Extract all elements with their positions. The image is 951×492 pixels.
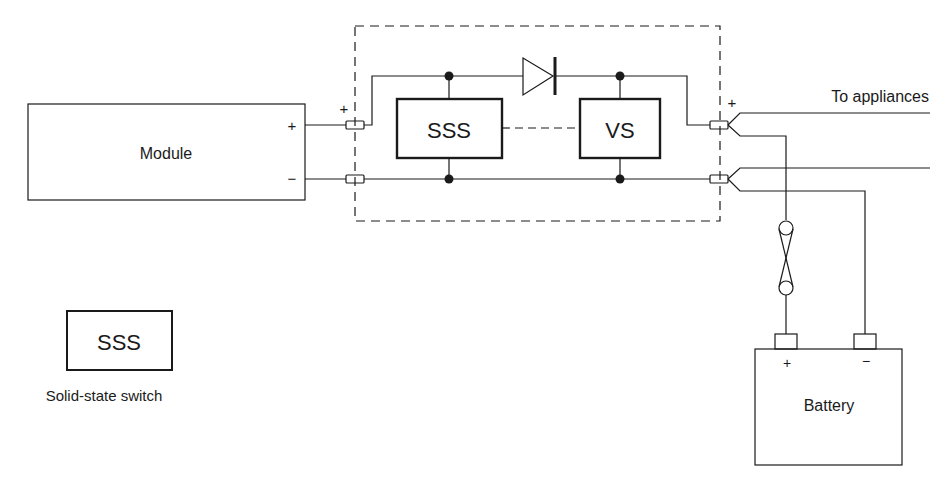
appliance-positive-wire (728, 113, 930, 125)
battery-positive-terminal (775, 334, 797, 349)
controller-enclosure (355, 26, 720, 221)
module-plus-label: + (288, 117, 297, 134)
junction-dot (445, 175, 454, 184)
output-positive-connector (710, 121, 728, 129)
output-negative-connector (710, 175, 728, 183)
junction-dot (616, 72, 625, 81)
module-label: Module (140, 145, 193, 162)
battery-negative-wire (728, 179, 865, 334)
module-minus-label: − (288, 170, 297, 187)
controller-input-plus-label: + (340, 100, 349, 117)
diode-icon (523, 58, 553, 95)
controller-output-plus-label: + (728, 94, 737, 111)
battery-negative-terminal (854, 334, 876, 349)
appliances-label: To appliances (831, 88, 929, 105)
sss-label: SSS (427, 118, 471, 143)
junction-dot (616, 175, 625, 184)
appliance-negative-wire (728, 168, 930, 179)
fuse-icon-top (779, 221, 793, 235)
fuse-icon-bottom (779, 281, 793, 295)
legend-description: Solid-state switch (46, 387, 163, 404)
legend-sss-label: SSS (97, 330, 141, 355)
battery-plus-label: + (783, 355, 791, 371)
battery-minus-label: − (862, 353, 870, 369)
vs-label: VS (605, 118, 634, 143)
junction-dot (445, 72, 454, 81)
battery-positive-wire (728, 125, 786, 220)
battery-label: Battery (804, 397, 855, 414)
wiring-diagram: Module + − + + SSS VS To appliances Batt… (0, 0, 951, 492)
